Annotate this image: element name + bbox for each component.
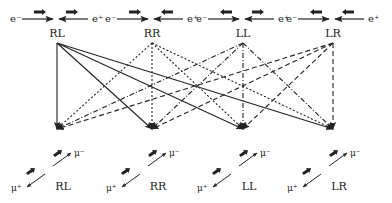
- muon-minus-spin-arrow-icon: [147, 148, 159, 159]
- muon-minus-label: μ⁻: [350, 148, 361, 158]
- electron-label: e⁻: [10, 13, 21, 24]
- final-state-label: RL: [55, 180, 71, 193]
- muon-plus-spin-arrow-icon: [120, 166, 132, 177]
- muon-plus-momentum-arrow: [213, 174, 231, 187]
- electron-spin-arrow-icon: [220, 9, 232, 15]
- muon-minus-label: μ⁻: [169, 148, 180, 158]
- helicity-transition-diagram: e⁻e⁺RLe⁻e⁺RRe⁻e⁺LLe⁻e⁺LR μ⁻μ⁺RLμ⁻μ⁺RRμ⁻μ…: [0, 0, 392, 203]
- muon-plus-label: μ⁺: [287, 183, 298, 193]
- final-state-RR: μ⁻μ⁺RR: [106, 148, 180, 193]
- muon-plus-momentum-arrow: [303, 174, 321, 187]
- initial-state-label: RR: [144, 27, 161, 40]
- muon-minus-spin-arrow-icon: [328, 148, 340, 159]
- electron-spin-arrow-icon: [34, 9, 46, 15]
- final-state-LR: μ⁻μ⁺LR: [287, 148, 361, 193]
- transition-lines: [57, 43, 333, 129]
- muon-minus-spin-arrow-icon: [238, 148, 250, 159]
- transition-line-LL-to-RR: [152, 43, 243, 129]
- final-state-label: RR: [150, 180, 167, 193]
- muon-plus-momentum-arrow: [122, 174, 140, 187]
- electron-spin-arrow-icon: [310, 9, 322, 15]
- positron-label: e⁺: [92, 13, 103, 24]
- electron-label: e⁻: [286, 13, 297, 24]
- initial-state-label: LR: [325, 27, 341, 40]
- muon-plus-label: μ⁺: [197, 183, 208, 193]
- muon-minus-spin-arrow-icon: [52, 148, 64, 159]
- electron-label: e⁻: [196, 13, 207, 24]
- initial-state-RR: e⁻e⁺RR: [105, 9, 198, 40]
- final-state-LL: μ⁻μ⁺LL: [197, 148, 271, 193]
- final-state-label: LR: [331, 180, 347, 193]
- initial-state-label: LL: [236, 27, 251, 40]
- initial-state-label: RL: [49, 27, 65, 40]
- positron-spin-arrow-icon: [161, 9, 173, 15]
- positron-label: e⁺: [368, 13, 379, 24]
- muon-plus-spin-arrow-icon: [211, 166, 223, 177]
- muon-plus-label: μ⁺: [106, 183, 117, 193]
- muon-minus-label: μ⁻: [260, 148, 271, 158]
- initial-states: e⁻e⁺RLe⁻e⁺RRe⁻e⁺LLe⁻e⁺LR: [10, 9, 379, 40]
- positron-spin-arrow-icon: [66, 9, 78, 15]
- positron-spin-arrow-icon: [342, 9, 354, 15]
- muon-plus-spin-arrow-icon: [301, 166, 313, 177]
- diagram-svg: e⁻e⁺RLe⁻e⁺RRe⁻e⁺LLe⁻e⁺LR μ⁻μ⁺RLμ⁻μ⁺RRμ⁻μ…: [0, 0, 392, 203]
- initial-state-LL: e⁻e⁺LL: [196, 9, 289, 40]
- muon-plus-spin-arrow-icon: [25, 166, 37, 177]
- final-state-RL: μ⁻μ⁺RL: [11, 148, 85, 193]
- electron-label: e⁻: [105, 13, 116, 24]
- final-states: μ⁻μ⁺RLμ⁻μ⁺RRμ⁻μ⁺LLμ⁻μ⁺LR: [11, 148, 361, 193]
- muon-plus-momentum-arrow: [27, 174, 45, 187]
- initial-state-RL: e⁻e⁺RL: [10, 9, 103, 40]
- muon-minus-label: μ⁻: [74, 148, 85, 158]
- positron-spin-arrow-icon: [252, 9, 264, 15]
- electron-spin-arrow-icon: [129, 9, 141, 15]
- muon-plus-label: μ⁺: [11, 183, 22, 193]
- final-state-label: LL: [242, 180, 257, 193]
- initial-state-LR: e⁻e⁺LR: [286, 9, 379, 40]
